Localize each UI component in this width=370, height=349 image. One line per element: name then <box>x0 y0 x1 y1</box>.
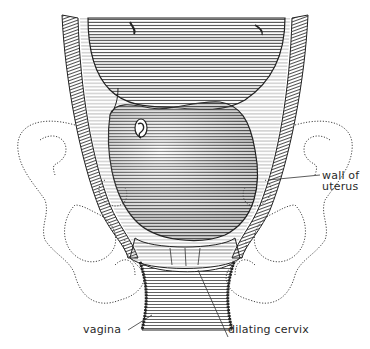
fetal-ear <box>135 119 147 138</box>
label-dilating-cervix: dilating cervix <box>228 324 309 335</box>
label-wall-of-uterus: wall of uterus <box>322 170 359 192</box>
label-vagina: vagina <box>83 324 121 335</box>
illustration <box>0 0 370 349</box>
label-wall-of-uterus-line2: uterus <box>322 181 359 192</box>
